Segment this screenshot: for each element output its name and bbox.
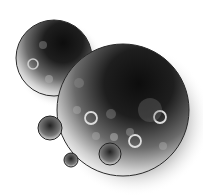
bubble-tiny — [64, 153, 78, 167]
bubble-inner — [99, 143, 121, 165]
bubbles-svg — [0, 0, 203, 196]
bubble-small — [38, 116, 62, 140]
bubbles-illustration — [0, 0, 203, 196]
